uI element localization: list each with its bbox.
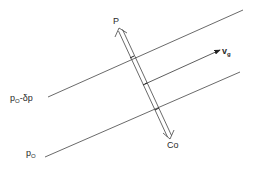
coriolis-label: Co: [167, 141, 179, 150]
isobar-upper-label-suffix: -δp: [20, 93, 33, 103]
pressure-label: P: [113, 17, 119, 26]
isobar-upper-label: pO-δp: [10, 94, 33, 104]
isobar-lower-label: pO: [26, 149, 36, 159]
vg-label: vg: [222, 47, 231, 57]
coriolis-label-text: Co: [167, 140, 179, 150]
vg-label-sub: g: [227, 51, 231, 57]
pressure-label-text: P: [113, 16, 119, 26]
isobar-lower-line: [45, 72, 240, 157]
vg-arrow-icon: [145, 50, 220, 84]
diagram-canvas: [0, 0, 254, 171]
isobar-lower-label-sub: O: [31, 153, 36, 159]
